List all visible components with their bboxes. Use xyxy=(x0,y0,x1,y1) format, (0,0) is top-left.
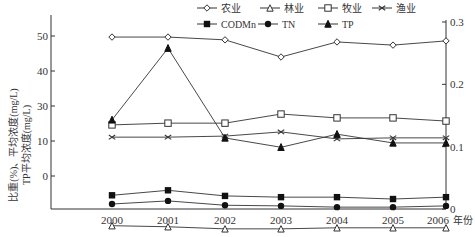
legend: 农业林业牧业渔业CODMnTNTP xyxy=(197,2,416,30)
y-tick-label-right: 0.2 xyxy=(450,78,464,90)
series-牧业 xyxy=(109,111,449,128)
data-point xyxy=(222,193,228,199)
data-point xyxy=(443,38,449,44)
y-tick-label-left: 0 xyxy=(43,170,49,182)
series-line xyxy=(112,226,446,229)
data-point xyxy=(334,131,340,138)
legend-item: 牧业 xyxy=(318,2,362,14)
x-tick-label: 2002 xyxy=(214,214,236,226)
legend-marker xyxy=(204,5,210,11)
y-tick-label-right: 0 xyxy=(450,203,456,215)
data-point xyxy=(443,194,449,200)
legend-label: CODMn xyxy=(221,19,256,30)
data-point xyxy=(222,202,228,208)
data-point xyxy=(222,37,228,43)
y-tick-label-right: 0.3 xyxy=(450,16,464,28)
legend-marker xyxy=(325,5,331,11)
legend-item: TP xyxy=(318,19,354,30)
data-point xyxy=(278,54,284,60)
x-axis-label: 年份 xyxy=(453,214,473,226)
y-tick-label-left: 40 xyxy=(37,65,49,77)
data-point xyxy=(334,194,340,200)
series-layer xyxy=(109,34,449,232)
data-point xyxy=(443,203,449,209)
data-point xyxy=(222,120,228,126)
data-point xyxy=(165,34,171,40)
legend-item: 林业 xyxy=(260,2,304,14)
legend-label: 渔业 xyxy=(396,3,416,14)
legend-label: 林业 xyxy=(284,2,304,14)
data-point xyxy=(109,192,115,198)
series-CODMn xyxy=(109,187,449,202)
data-point xyxy=(165,187,171,193)
legend-marker xyxy=(265,21,271,27)
data-point xyxy=(165,198,171,204)
series-TP xyxy=(109,44,449,150)
data-point xyxy=(165,120,171,126)
legend-label: 牧业 xyxy=(342,2,362,14)
data-point xyxy=(165,44,171,51)
y-axis-label-left: 比重(%)、平均浓度(mg/L) xyxy=(7,88,20,201)
data-point xyxy=(278,194,284,200)
y-axis-label-left-line2: TP平均浓度(mg/L) xyxy=(20,105,33,185)
legend-label: TN xyxy=(282,19,295,30)
x-tick-label: 2003 xyxy=(270,214,293,226)
data-point xyxy=(109,201,115,207)
legend-label: TP xyxy=(342,19,354,30)
y-tick-label-left: 10 xyxy=(37,135,49,147)
data-point xyxy=(109,34,115,40)
data-point xyxy=(390,115,396,121)
series-农业 xyxy=(109,34,449,60)
line-chart: 5040301000.30.20.10200020012002200320042… xyxy=(0,0,475,237)
data-point xyxy=(334,115,340,121)
y-tick-label-left: 50 xyxy=(37,30,49,42)
series-渔业 xyxy=(109,130,449,141)
y-tick-label-left: 30 xyxy=(37,100,49,112)
legend-item: 渔业 xyxy=(372,3,416,14)
legend-item: TN xyxy=(258,19,295,30)
data-point xyxy=(390,42,396,48)
data-point xyxy=(334,39,340,45)
data-point xyxy=(334,204,340,210)
series-line xyxy=(112,37,446,57)
data-point xyxy=(390,204,396,210)
y-tick-label-right: 0.1 xyxy=(450,141,464,153)
legend-marker xyxy=(204,21,210,27)
data-point xyxy=(390,196,396,202)
legend-label: 农业 xyxy=(221,2,241,14)
data-point xyxy=(278,203,284,209)
legend-item: CODMn xyxy=(197,19,256,30)
data-point xyxy=(278,111,284,117)
legend-item: 农业 xyxy=(197,2,241,14)
axes: 5040301000.30.20.10200020012002200320042… xyxy=(37,15,464,226)
data-point xyxy=(443,118,449,124)
